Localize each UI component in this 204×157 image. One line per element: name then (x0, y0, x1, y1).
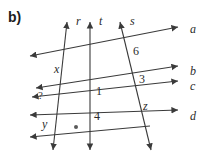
angle-label-6: 6 (133, 45, 139, 57)
transversal-label-r: r (76, 15, 81, 27)
transversal-line-s (120, 22, 151, 150)
angle-label-x: x (54, 63, 59, 75)
parallel-label-b: b (190, 65, 196, 77)
angle-label-1: 1 (96, 85, 102, 97)
parallel-line-c (32, 81, 178, 97)
parallel-line-d (30, 110, 178, 115)
parallel-line-a (30, 27, 178, 56)
transversal-line-r (53, 22, 67, 150)
geometry-figure-canvas: b) r t s a b c d x 6 3 1 z 4 y ? (0, 0, 204, 157)
parallel-label-a: a (190, 23, 196, 35)
transversal-label-t: t (99, 15, 102, 27)
part-label: b) (8, 10, 21, 24)
parallel-label-c: c (190, 80, 195, 92)
angle-label-z: z (143, 100, 148, 112)
parallel-label-d: d (190, 110, 196, 122)
angle-label-question: ? (38, 90, 43, 101)
angle-label-y: y (42, 118, 47, 130)
transversal-label-s: s (130, 15, 135, 27)
angle-label-3: 3 (139, 73, 145, 85)
dot-marker (74, 125, 78, 129)
angle-label-4: 4 (94, 110, 100, 122)
